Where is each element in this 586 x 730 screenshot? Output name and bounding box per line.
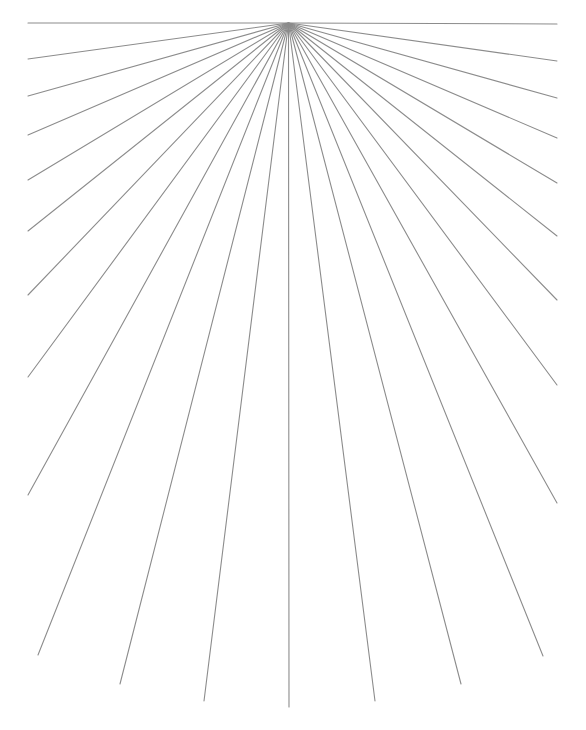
- fan-line: [289, 23, 558, 98]
- fan-line: [289, 23, 558, 503]
- fan-line: [28, 23, 289, 180]
- fan-line: [120, 23, 289, 684]
- fan-line: [289, 23, 290, 707]
- fan-line: [289, 23, 558, 183]
- fan-line: [38, 23, 289, 655]
- fan-line: [28, 23, 289, 135]
- fan-lines-group: [28, 23, 557, 707]
- fan-line: [289, 23, 462, 684]
- fan-line: [204, 23, 289, 701]
- fan-line: [289, 23, 376, 701]
- fan-line: [289, 23, 558, 300]
- fan-line: [289, 23, 558, 138]
- fan-line: [289, 23, 558, 24]
- fan-line: [289, 23, 544, 656]
- fan-line: [28, 23, 289, 295]
- fan-line: [28, 23, 289, 495]
- radial-line-fan-diagram: [0, 0, 586, 730]
- fan-line: [28, 23, 289, 96]
